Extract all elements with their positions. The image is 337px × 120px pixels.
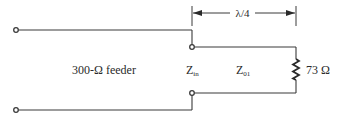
load-resistor (293, 47, 299, 93)
input-impedance-label: Zin (186, 63, 199, 78)
resistor-zigzag-icon (293, 59, 299, 80)
feeder-bottom-conductor (14, 95, 192, 112)
arrow-left-icon (193, 10, 202, 16)
line-impedance-main: Z (236, 63, 243, 77)
quarter-wave-transformer-diagram: λ/4 300-Ω feeder Zin Z01 73 Ω (0, 0, 337, 120)
load-label: 73 Ω (306, 63, 330, 77)
arrow-right-icon (286, 10, 295, 16)
line-impedance-sub: 01 (243, 70, 251, 78)
feeder-input-terminal-top (14, 28, 19, 33)
junction-terminal-bottom (190, 91, 195, 96)
line-impedance-label: Z01 (236, 63, 251, 78)
feeder-top-conductor (14, 28, 192, 45)
junction-terminal-top (190, 45, 195, 50)
input-impedance-main: Z (186, 63, 193, 77)
length-dimension: λ/4 (192, 6, 296, 26)
feeder-label: 300-Ω feeder (72, 63, 136, 77)
input-impedance-sub: in (193, 70, 199, 78)
feeder-input-terminal-bottom (14, 108, 19, 113)
length-label: λ/4 (236, 7, 250, 19)
